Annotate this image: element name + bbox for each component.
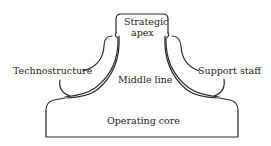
strategic-apex-label-line1: Strategic xyxy=(124,17,168,27)
strategic-apex-label-line2: apex xyxy=(131,28,154,38)
support-staff-label: Support staff xyxy=(198,66,261,76)
middle-line-label: Middle line xyxy=(118,75,172,85)
operating-core-label: Operating core xyxy=(107,116,180,126)
technostructure-label: Technostructure xyxy=(13,66,92,76)
